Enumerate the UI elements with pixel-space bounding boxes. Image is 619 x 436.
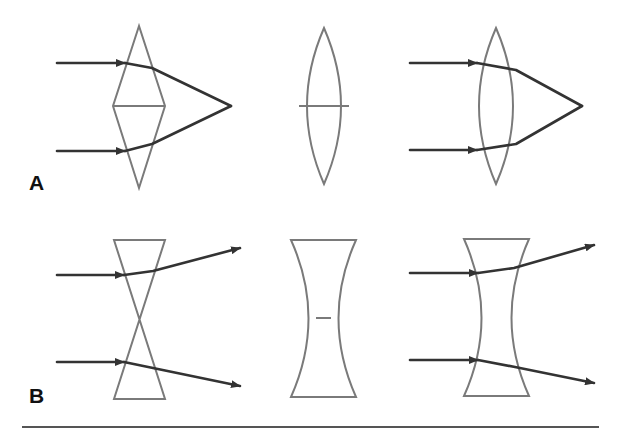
prism-pair-apex-to-apex — [114, 240, 165, 399]
biconcave-lens-with-rays — [464, 239, 529, 396]
biconvex-lens-with-rays — [479, 28, 513, 184]
prism-pair-base-to-base — [113, 26, 165, 188]
biconcave-lens — [291, 240, 356, 397]
bottom-divider — [22, 426, 599, 428]
panel-label-a: A — [29, 172, 44, 193]
biconvex-lens — [299, 28, 349, 184]
lens-diagram — [0, 0, 619, 436]
diverging-rays-lens — [410, 245, 594, 383]
converging-rays-lens — [410, 63, 582, 150]
diverging-rays-prism — [57, 248, 240, 386]
panel-label-b: B — [29, 385, 44, 406]
